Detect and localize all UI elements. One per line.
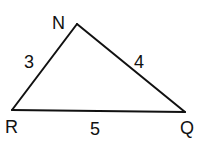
side-rq bbox=[12, 110, 185, 112]
side-rn bbox=[12, 24, 77, 110]
triangle-diagram: N R Q 3 4 5 bbox=[0, 0, 209, 145]
side-length-rq: 5 bbox=[90, 119, 100, 139]
vertex-label-r: R bbox=[5, 117, 18, 137]
side-nq bbox=[77, 24, 185, 112]
vertex-label-n: N bbox=[52, 13, 65, 33]
vertex-label-q: Q bbox=[180, 118, 194, 138]
side-length-rn: 3 bbox=[24, 52, 34, 72]
side-length-nq: 4 bbox=[134, 52, 144, 72]
